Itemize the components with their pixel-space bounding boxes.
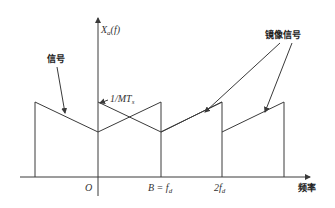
peak-label: 1/MTs: [110, 93, 135, 106]
spectrum-diagram: Xa(f) 1/MTs 信号 镜像信号 O B = fd 2fd 频率: [0, 0, 335, 208]
tick-fd: B = fd: [148, 182, 173, 195]
tick-origin: O: [85, 182, 92, 193]
signal-pointer: [57, 67, 65, 113]
image-signal-label: 镜像信号: [265, 29, 301, 40]
image-spectrum-mid: [98, 102, 222, 132]
peak-pointer: [100, 100, 108, 103]
y-axis-label: Xa(f): [100, 24, 121, 37]
x-axis-title: 频率: [298, 182, 316, 193]
signal-label: 信号: [47, 53, 65, 64]
image-spectrum-right: [222, 102, 284, 132]
tick-2fd: 2fd: [214, 182, 226, 195]
signal-spectrum-right: [161, 102, 222, 132]
